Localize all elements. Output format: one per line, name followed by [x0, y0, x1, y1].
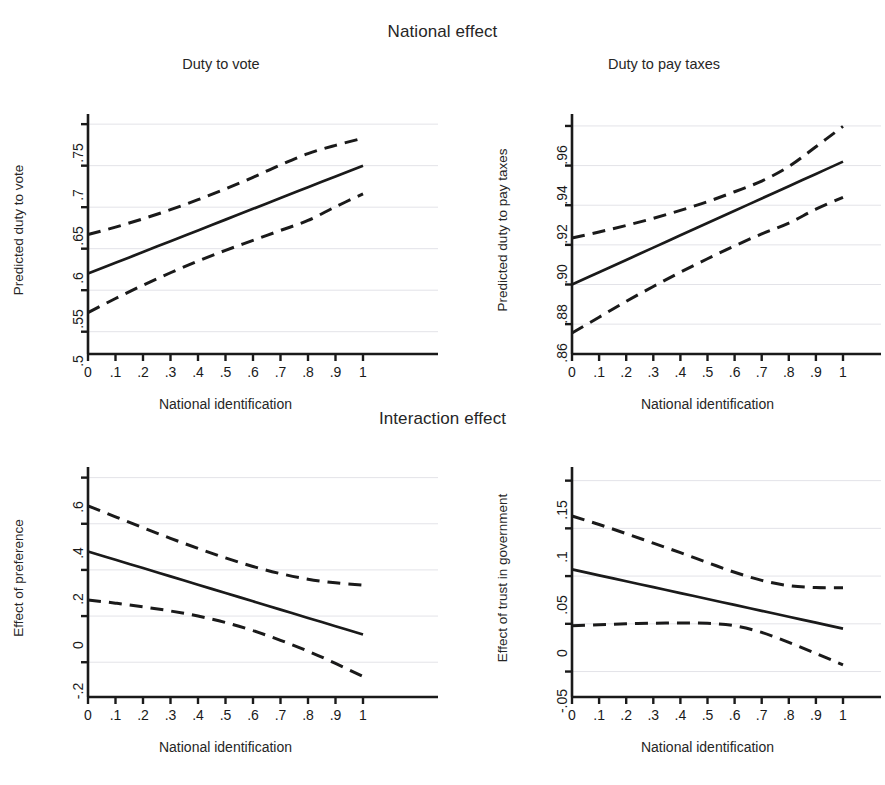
panel-duty-to-pay-taxes: Duty to pay taxes Predicted duty to pay …	[443, 56, 885, 396]
panel-effect-of-trust-in-government: Effect of trust in government National i…	[443, 440, 885, 780]
x-axis-title: National identification	[443, 396, 885, 412]
x-tick-label: .8	[302, 364, 314, 380]
x-tick-label: .9	[330, 364, 342, 380]
series-line-estimate	[572, 162, 843, 285]
x-tick-label: .4	[192, 707, 204, 723]
x-tick-label: .2	[620, 707, 632, 723]
series-line-estimate	[88, 166, 363, 274]
x-tick-label: 1	[839, 707, 847, 723]
plot-area	[0, 440, 442, 780]
x-tick-label: .5	[220, 364, 232, 380]
y-tick-label: .6	[70, 477, 86, 537]
series-line-estimate	[572, 569, 843, 628]
x-tick-label: .1	[110, 364, 122, 380]
x-tick-label: .6	[247, 364, 259, 380]
x-tick-label: .2	[137, 364, 149, 380]
y-tick-label: .15	[554, 480, 570, 540]
series-line-confidence-interval	[88, 194, 363, 313]
x-tick-label: .8	[783, 364, 795, 380]
x-tick-label: .4	[675, 707, 687, 723]
x-tick-label: .3	[165, 707, 177, 723]
x-axis-title: National identification	[0, 396, 451, 412]
x-tick-label: .7	[275, 707, 287, 723]
x-tick-label: .7	[756, 707, 768, 723]
group-title-national-effect: National effect	[0, 22, 885, 42]
y-tick-label: .96	[554, 125, 570, 185]
x-tick-label: .7	[275, 364, 287, 380]
x-tick-label: 1	[359, 364, 367, 380]
y-tick-label: .75	[70, 123, 86, 183]
x-tick-label: .6	[729, 707, 741, 723]
x-tick-label: .1	[110, 707, 122, 723]
x-tick-label: 1	[839, 364, 847, 380]
series-line-confidence-interval	[88, 506, 363, 585]
x-tick-label: .1	[593, 707, 605, 723]
x-tick-label: .5	[702, 364, 714, 380]
x-tick-label: .3	[165, 364, 177, 380]
x-tick-label: .3	[647, 364, 659, 380]
plot-area	[443, 440, 885, 780]
x-tick-label: .6	[247, 707, 259, 723]
x-tick-label: .4	[192, 364, 204, 380]
x-tick-label: .5	[220, 707, 232, 723]
series-line-confidence-interval	[88, 600, 363, 677]
figure-panel-grid: National effect Interaction effect Duty …	[0, 0, 885, 785]
x-tick-label: .2	[137, 707, 149, 723]
x-tick-label: .9	[810, 707, 822, 723]
x-tick-label: .7	[756, 364, 768, 380]
panel-effect-of-preference: Effect of preference National identifica…	[0, 440, 442, 780]
series-line-confidence-interval	[572, 623, 843, 665]
plot-area	[443, 56, 885, 396]
x-tick-label: .8	[783, 707, 795, 723]
x-tick-label: 1	[359, 707, 367, 723]
series-line-confidence-interval	[572, 126, 843, 238]
x-tick-label: .2	[620, 364, 632, 380]
plot-area	[0, 56, 442, 396]
x-tick-label: .5	[702, 707, 714, 723]
x-tick-label: .1	[593, 364, 605, 380]
group-title-interaction-effect: Interaction effect	[0, 409, 885, 429]
x-tick-label: .6	[729, 364, 741, 380]
x-tick-label: .8	[302, 707, 314, 723]
x-tick-label: .4	[675, 364, 687, 380]
series-line-estimate	[88, 551, 363, 634]
x-tick-label: .3	[647, 707, 659, 723]
x-tick-label: .9	[330, 707, 342, 723]
panel-duty-to-vote: Duty to vote Predicted duty to vote Nati…	[0, 56, 442, 396]
x-tick-label: .9	[810, 364, 822, 380]
